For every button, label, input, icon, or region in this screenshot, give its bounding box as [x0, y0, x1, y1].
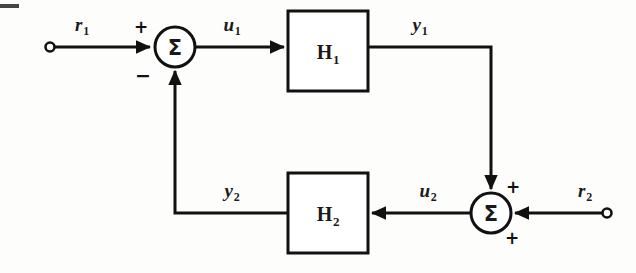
signal-u1-base: u: [224, 14, 235, 35]
signal-y2-base: y: [225, 180, 234, 201]
block-diagram-canvas: Σ Σ H1 H2 r1 u1 y1 y2 u2 r2 + − + +: [0, 0, 636, 273]
signal-label-u1: u1: [224, 15, 241, 34]
signal-u1-subscript: 1: [235, 24, 241, 38]
signal-y2-subscript: 2: [234, 190, 240, 204]
terminal-r1: [46, 43, 55, 52]
block-h1-subscript: 1: [333, 52, 340, 67]
block-h2-subscript: 2: [333, 214, 340, 229]
signal-label-y1: y1: [413, 15, 428, 34]
signal-y1-subscript: 1: [422, 24, 428, 38]
signal-r2-base: r: [578, 180, 586, 201]
block-h2-label: H2: [317, 204, 340, 224]
block-h1-base: H: [317, 41, 333, 63]
summing-junction-1-sigma: Σ: [168, 38, 182, 59]
summer1-plus-sign: +: [134, 19, 148, 36]
summer1-minus-sign: −: [135, 66, 151, 85]
signal-y1-base: y: [413, 14, 422, 35]
signal-label-u2: u2: [420, 181, 437, 200]
wire-h1-to-summer2: [368, 47, 491, 189]
signal-label-y2: y2: [225, 181, 240, 200]
block-h1-label: H1: [317, 42, 340, 62]
signal-u2-base: u: [420, 180, 431, 201]
terminal-r2: [603, 209, 612, 218]
summer2-plus-sign-bottom: +: [505, 230, 519, 247]
signal-r2-subscript: 2: [586, 190, 592, 204]
signal-u2-subscript: 2: [431, 190, 437, 204]
summing-junction-2-sigma: Σ: [484, 204, 498, 225]
block-h2-base: H: [317, 203, 333, 225]
signal-r1-base: r: [75, 14, 83, 35]
summer2-plus-sign-top: +: [506, 179, 520, 196]
signal-label-r1: r1: [75, 15, 89, 34]
signal-r1-subscript: 1: [83, 24, 89, 38]
signal-label-r2: r2: [578, 181, 592, 200]
